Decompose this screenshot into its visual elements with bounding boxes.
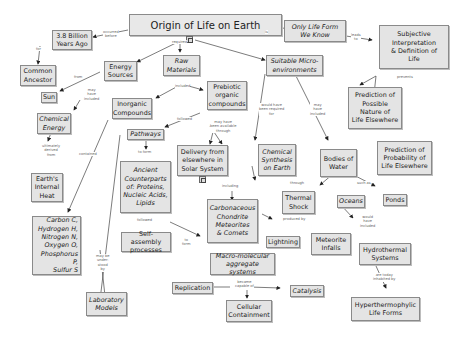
link-label: followed bbox=[137, 218, 152, 222]
node-suitable[interactable]: Suitable Micro- environments bbox=[266, 55, 323, 76]
node-macro[interactable]: Macro-molecular aggregate systems bbox=[210, 253, 275, 275]
node-lightning[interactable]: Lightning bbox=[266, 236, 300, 248]
node-chemical-energy[interactable]: Chemical Energy bbox=[37, 113, 71, 134]
node-prebiotic[interactable]: Prebiotic organic compounds bbox=[207, 81, 247, 110]
link-label: for bbox=[36, 47, 41, 51]
link-label: is bbox=[265, 30, 268, 34]
node-hyper[interactable]: Hyperthermophylic Life Forms bbox=[351, 297, 420, 321]
link-label: through bbox=[290, 181, 304, 185]
node-pred-possible[interactable]: Prediction of Possible Nature of Life El… bbox=[348, 87, 402, 129]
link-label: are today inhabited by bbox=[373, 273, 396, 282]
node-delivery[interactable]: Delivery from elsewhere in Solar System bbox=[177, 145, 228, 176]
node-replication[interactable]: Replication bbox=[172, 282, 213, 294]
link-label: may have been available through bbox=[210, 120, 236, 133]
node-thermal[interactable]: Thermal Shock bbox=[282, 191, 315, 214]
node-pred-prob[interactable]: Prediction of Probability of Life Elsewh… bbox=[377, 141, 432, 175]
node-ponds[interactable]: Ponds bbox=[383, 194, 407, 206]
link-label: included bbox=[175, 84, 190, 88]
node-bodies[interactable]: Bodies of Water bbox=[320, 149, 357, 177]
node-oceans[interactable]: Oceans bbox=[337, 195, 365, 208]
node-carbonaceous[interactable]: Carbonaceous Chondrite Meteorites & Come… bbox=[207, 199, 258, 243]
link-label: including bbox=[222, 184, 238, 188]
node-meteorite[interactable]: Meteorite Infalls bbox=[311, 233, 351, 255]
node-raw[interactable]: Raw Materials bbox=[163, 55, 200, 76]
link-label: to form bbox=[138, 150, 151, 154]
node-inorganic[interactable]: Inorganic Compounds bbox=[112, 98, 152, 119]
link-label: would have been required for bbox=[259, 103, 284, 116]
link-label: followed bbox=[177, 117, 192, 121]
link-label: from bbox=[74, 75, 82, 79]
link-label: may be under- stood by bbox=[96, 254, 109, 272]
node-only-life[interactable]: Only Life Form We Know bbox=[284, 20, 346, 42]
node-self-assembly[interactable]: Self-assembly processes bbox=[121, 232, 171, 252]
link-label: would have included bbox=[360, 215, 375, 228]
node-energy[interactable]: Energy Sources bbox=[104, 61, 137, 81]
link-label: contained bbox=[79, 152, 97, 156]
node-ancestor[interactable]: Common Ancestor bbox=[20, 65, 56, 86]
link-label: may have included bbox=[84, 88, 99, 101]
node-elements[interactable]: Carbon C, Hydrogen H, Nitrogen N, Oxygen… bbox=[32, 216, 81, 275]
node-billion[interactable]: 3.8 Billion Years Ago bbox=[52, 30, 92, 50]
link-label: occurred before bbox=[103, 30, 119, 39]
link-label: required bbox=[172, 40, 187, 44]
link-label: such as bbox=[357, 181, 371, 185]
link-label: ultimately derived from bbox=[42, 144, 60, 157]
node-subjective[interactable]: Subjective Interpretation & Definition o… bbox=[379, 25, 449, 69]
link-label: may have included bbox=[310, 103, 325, 116]
node-origin[interactable]: Origin of Life on Earth bbox=[129, 14, 282, 36]
node-pathways[interactable]: Pathways bbox=[127, 129, 164, 140]
link-label: became capable of bbox=[235, 280, 254, 289]
node-cellular[interactable]: Cellular Containment bbox=[226, 300, 272, 322]
link-label: prevents bbox=[397, 75, 413, 79]
node-sun[interactable]: Sun bbox=[41, 92, 57, 103]
link-label: produced by bbox=[283, 217, 305, 221]
node-chem-synth[interactable]: Chemical Synthesis on Earth bbox=[258, 144, 296, 176]
link-label: to form bbox=[182, 238, 190, 247]
node-ancient[interactable]: Ancient Counterparts of: Proteins, Nucle… bbox=[120, 161, 171, 213]
document-icon[interactable] bbox=[199, 176, 206, 183]
link-label: leads to bbox=[351, 33, 361, 42]
node-catalysis[interactable]: Catalysis bbox=[290, 285, 324, 297]
node-lab[interactable]: Laboratory Models bbox=[86, 292, 127, 316]
node-hydrothermal[interactable]: Hydrothermal Systems bbox=[359, 243, 411, 265]
node-earth-heat[interactable]: Earth's Internal Heat bbox=[31, 173, 63, 202]
